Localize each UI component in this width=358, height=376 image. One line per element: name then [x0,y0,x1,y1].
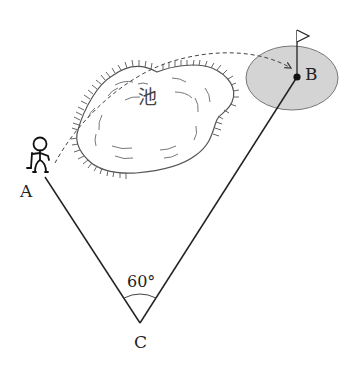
golfer-icon [27,138,49,173]
putting-green [246,46,338,110]
point-C-label: C [134,332,147,352]
pond-label: 池 [138,86,157,108]
angle-arc-C [124,294,156,298]
point-A-label: A [19,181,33,201]
segment-AC [45,177,140,323]
angle-label: 60° [127,272,155,291]
point-B-dot [293,73,300,80]
diagram-canvas: 池 60° A B C [0,0,358,376]
pond: 池 [71,60,239,179]
point-B-label: B [305,64,318,84]
